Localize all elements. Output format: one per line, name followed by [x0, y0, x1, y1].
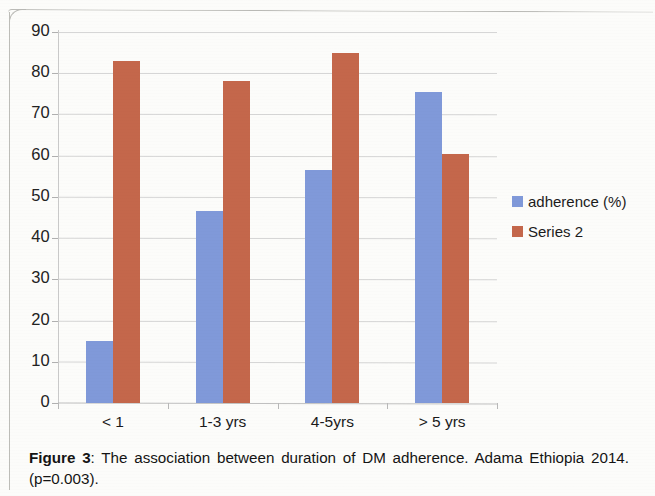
y-axis-label: 70	[16, 103, 50, 122]
bar-group	[86, 32, 140, 403]
legend-item: adherence (%)	[512, 193, 652, 210]
x-axis-tick	[278, 403, 279, 409]
y-axis-tick	[52, 156, 58, 157]
scanned-page: 0102030405060708090 < 11-3 yrs4-5yrs> 5 …	[0, 0, 655, 496]
y-axis-label: 90	[16, 21, 50, 40]
bar-group	[415, 32, 469, 403]
bar	[305, 170, 332, 403]
y-axis-tick	[52, 321, 58, 322]
legend-item: Series 2	[512, 223, 652, 240]
bar-group	[196, 32, 250, 403]
legend-swatch	[512, 226, 523, 237]
bar-group	[305, 32, 359, 403]
bar-chart: 0102030405060708090 < 11-3 yrs4-5yrs> 5 …	[0, 0, 655, 440]
bar	[113, 61, 140, 403]
y-axis-tick	[52, 32, 58, 33]
legend-label: Series 2	[528, 223, 583, 240]
y-axis-tick	[52, 197, 58, 198]
caption-separator: :	[91, 449, 102, 466]
y-axis-tick	[52, 238, 58, 239]
x-axis-tick	[497, 403, 498, 409]
x-axis-tick	[58, 403, 59, 409]
legend-label: adherence (%)	[528, 193, 626, 210]
bar	[442, 154, 469, 403]
x-axis-tick	[168, 403, 169, 409]
x-axis-label: > 5 yrs	[387, 413, 497, 431]
y-axis-label: 40	[16, 227, 50, 246]
bar	[415, 92, 442, 403]
bar	[332, 53, 359, 403]
y-axis-label: 10	[16, 351, 50, 370]
x-axis-label: < 1	[58, 413, 168, 431]
legend-swatch	[512, 196, 523, 207]
figure-label: Figure 3	[29, 449, 91, 466]
bar	[196, 211, 223, 403]
y-axis-label: 80	[16, 62, 50, 81]
y-axis-label: 30	[16, 268, 50, 287]
x-axis-label: 1-3 yrs	[168, 413, 278, 431]
caption-text: The association between duration of DM a…	[29, 449, 629, 487]
y-axis-label: 60	[16, 145, 50, 164]
y-axis-label: 0	[16, 392, 50, 411]
x-axis-label: 4-5yrs	[277, 413, 387, 431]
bar	[223, 81, 250, 403]
y-axis-tick	[52, 362, 58, 363]
x-axis-tick	[387, 403, 388, 409]
y-axis-tick	[52, 114, 58, 115]
figure-caption: Figure 3: The association between durati…	[29, 447, 629, 489]
y-axis-tick	[52, 73, 58, 74]
y-axis-label: 50	[16, 186, 50, 205]
y-axis-tick	[52, 279, 58, 280]
y-axis-label: 20	[16, 310, 50, 329]
plot-area: < 11-3 yrs4-5yrs> 5 yrs	[58, 32, 497, 403]
chart-legend: adherence (%)Series 2	[512, 193, 652, 253]
bar	[86, 341, 113, 403]
